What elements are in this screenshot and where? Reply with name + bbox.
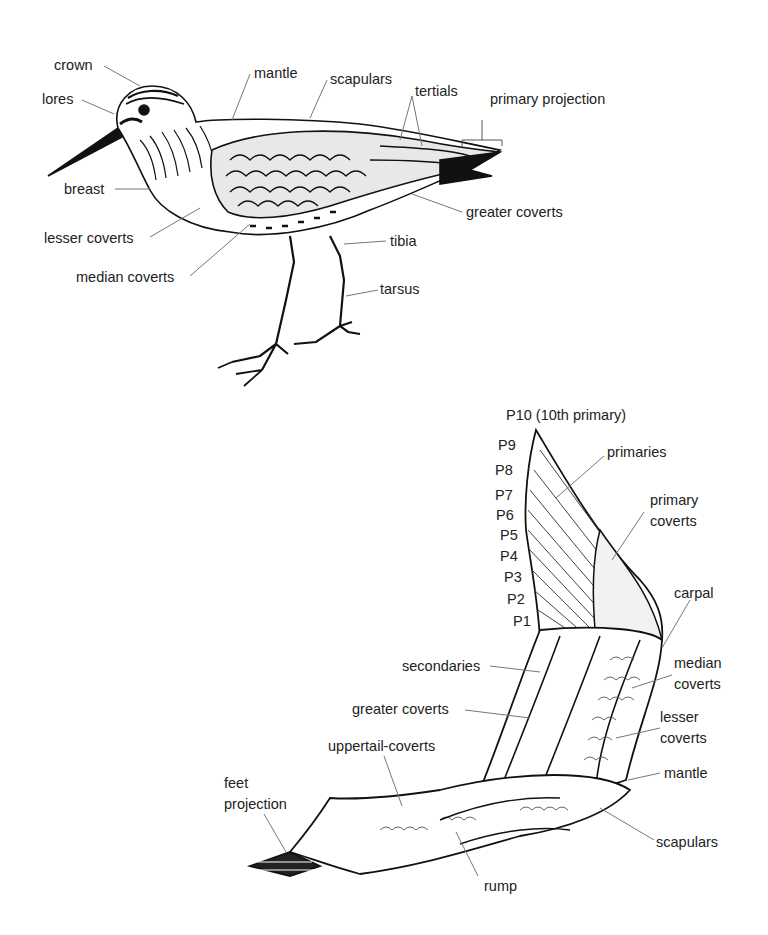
label-p1: P1 xyxy=(513,613,531,630)
label-lesser-coverts-line2: coverts xyxy=(660,730,707,747)
label-p4: P4 xyxy=(500,548,518,565)
label-p8: P8 xyxy=(495,462,513,479)
label-tarsus: tarsus xyxy=(380,281,420,298)
label-primary-coverts-line2: coverts xyxy=(650,513,697,530)
label-primary-projection: primary projection xyxy=(490,91,605,108)
label-tertials: tertials xyxy=(415,83,458,100)
label-secondaries: secondaries xyxy=(402,658,480,675)
label-primaries: primaries xyxy=(607,444,667,461)
label-uppertail-coverts: uppertail-coverts xyxy=(328,738,435,755)
label-carpal: carpal xyxy=(674,585,714,602)
bird-topography-illustration xyxy=(0,0,768,935)
label-rump: rump xyxy=(484,878,517,895)
label-crown: crown xyxy=(54,57,93,74)
label-greater-coverts-flying: greater coverts xyxy=(352,701,449,718)
label-p5: P5 xyxy=(500,527,518,544)
label-p10: P10 (10th primary) xyxy=(506,407,626,424)
label-mantle: mantle xyxy=(254,65,298,82)
label-p3: P3 xyxy=(504,569,522,586)
label-tibia: tibia xyxy=(390,233,417,250)
flying-bird-drawing xyxy=(250,430,662,876)
label-breast: breast xyxy=(64,181,104,198)
label-feet-projection-line1: feet xyxy=(224,775,248,792)
label-p7: P7 xyxy=(495,487,513,504)
label-p6: P6 xyxy=(496,507,514,524)
label-greater-coverts: greater coverts xyxy=(466,204,563,221)
label-p2: P2 xyxy=(507,591,525,608)
label-median-coverts-line1: median xyxy=(674,655,722,672)
label-scapulars-flying: scapulars xyxy=(656,834,718,851)
label-lores: lores xyxy=(42,91,73,108)
label-scapulars: scapulars xyxy=(330,71,392,88)
label-primary-coverts-line1: primary xyxy=(650,492,698,509)
label-p9: P9 xyxy=(498,437,516,454)
label-lesser-coverts: lesser coverts xyxy=(44,230,133,247)
label-median-coverts: median coverts xyxy=(76,269,174,286)
label-mantle-flying: mantle xyxy=(664,765,708,782)
label-feet-projection-line2: projection xyxy=(224,796,287,813)
label-median-coverts-line2: coverts xyxy=(674,676,721,693)
label-lesser-coverts-line1: lesser xyxy=(660,709,699,726)
